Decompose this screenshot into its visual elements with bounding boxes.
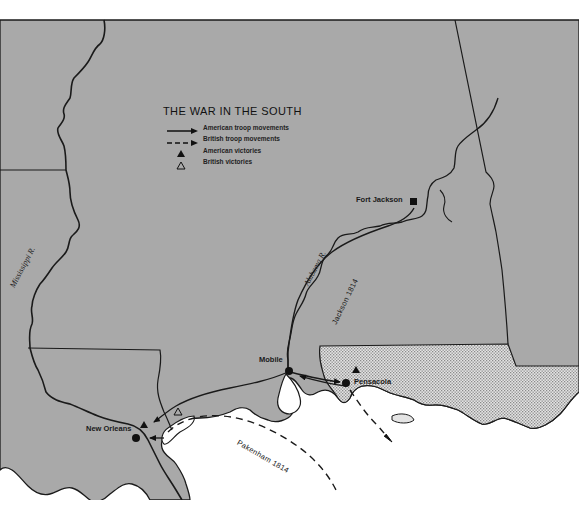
dashed-arrow-icon (163, 134, 203, 144)
map-title: THE WAR IN THE SOUTH (163, 105, 363, 117)
new-orleans-marker (132, 434, 140, 442)
fort-jackson-marker (410, 198, 417, 205)
fort-jackson-label: Fort Jackson (356, 195, 403, 204)
mobile-marker (285, 367, 293, 375)
pensacola-label: Pensacola (354, 377, 391, 386)
legend-item: American victories (163, 145, 363, 155)
mobile-label: Mobile (259, 355, 283, 364)
open-triangle-icon (163, 157, 203, 167)
new-orleans-label: New Orleans (86, 424, 131, 433)
legend-item: British troop movements (163, 134, 363, 144)
map-legend: THE WAR IN THE SOUTH American troop move… (163, 105, 363, 168)
legend-item: British victories (163, 157, 363, 167)
solid-arrow-icon (163, 122, 203, 132)
barrier-island (392, 414, 414, 423)
british-pensacola-route (350, 390, 390, 440)
filled-triangle-icon (163, 145, 203, 155)
legend-item: American troop movements (163, 122, 363, 132)
pensacola-marker (342, 379, 350, 387)
